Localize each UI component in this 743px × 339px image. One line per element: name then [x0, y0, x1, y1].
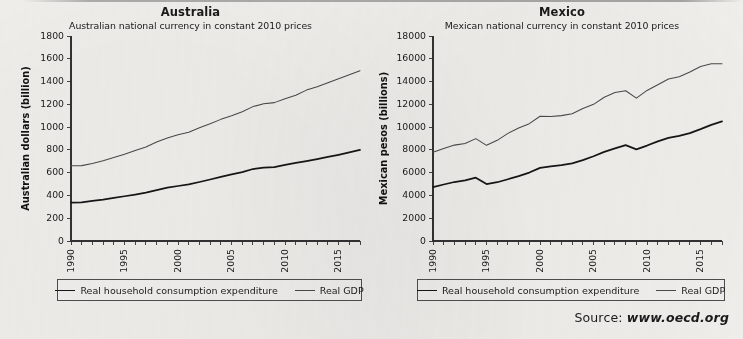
y-tick-label: 1600	[40, 52, 64, 63]
y-tick-label: 10000	[396, 121, 426, 132]
y-tick-label: 8000	[402, 143, 426, 154]
y-tick-label: 1800	[40, 30, 64, 41]
x-tick-label: 2000	[172, 249, 183, 273]
y-tick-label: 6000	[402, 166, 426, 177]
legend-label-consumption: Real household consumption expenditure	[442, 285, 639, 296]
y-tick-label: 1000	[40, 121, 64, 132]
y-tick-label: 18000	[396, 30, 426, 41]
legend-australia: Real household consumption expenditure R…	[57, 279, 362, 301]
x-tick-label: 2010	[279, 249, 290, 273]
x-tick-label: 2015	[332, 249, 343, 273]
page-top-edge	[0, 0, 743, 2]
y-tick-label: 0	[420, 235, 426, 246]
x-tick-label: 2010	[641, 249, 652, 273]
x-tick-label: 1995	[118, 249, 129, 273]
legend-entry-gdp: Real GDP	[295, 285, 364, 296]
x-tick-label: 2005	[587, 249, 598, 273]
source-label: Source:	[574, 310, 622, 325]
y-axis-title: Australian dollars (billion)	[20, 66, 31, 210]
x-tick-label: 2005	[225, 249, 236, 273]
legend-entry-consumption: Real household consumption expenditure	[55, 285, 277, 296]
legend-label-gdp: Real GDP	[320, 285, 364, 296]
legend-swatch-gdp	[295, 290, 315, 291]
y-tick-label: 12000	[396, 98, 426, 109]
y-tick-label: 14000	[396, 75, 426, 86]
legend-swatch-consumption	[417, 290, 437, 291]
chart-panel-mexico: Mexico Mexican national currency in cons…	[381, 0, 743, 339]
x-tick-label: 2000	[534, 249, 545, 273]
x-tick-label: 1995	[480, 249, 491, 273]
chart-panel-australia: Australia Australian national currency i…	[0, 0, 381, 339]
series-line-consumption	[433, 121, 722, 187]
y-tick-label: 400	[46, 189, 64, 200]
plot-area-australia: 0200400600800100012001400160018001990199…	[0, 0, 381, 275]
y-tick-label: 200	[46, 212, 64, 223]
y-tick-label: 600	[46, 166, 64, 177]
legend-swatch-gdp	[656, 290, 676, 291]
y-axis-title: Mexican pesos (billions)	[378, 72, 389, 205]
x-tick-label: 2015	[694, 249, 705, 273]
y-tick-label: 2000	[402, 212, 426, 223]
legend-entry-consumption: Real household consumption expenditure	[417, 285, 639, 296]
x-tick-label: 1990	[65, 249, 76, 273]
plot-area-mexico: 0200040006000800010000120001400016000180…	[381, 0, 743, 275]
legend-entry-gdp: Real GDP	[656, 285, 725, 296]
legend-mexico: Real household consumption expenditure R…	[417, 279, 725, 301]
y-tick-label: 4000	[402, 189, 426, 200]
y-tick-label: 1400	[40, 75, 64, 86]
legend-label-consumption: Real household consumption expenditure	[80, 285, 277, 296]
figure-oecd-consumption-gdp: Australia Australian national currency i…	[0, 0, 743, 339]
y-tick-label: 800	[46, 143, 64, 154]
y-tick-label: 0	[58, 235, 64, 246]
x-tick-label: 1990	[427, 249, 438, 273]
legend-swatch-consumption	[55, 290, 75, 291]
source-url: www.oecd.org	[627, 310, 729, 325]
legend-label-gdp: Real GDP	[681, 285, 725, 296]
y-tick-label: 1200	[40, 98, 64, 109]
axis-lines	[71, 36, 360, 241]
series-line-real-gdp	[433, 64, 722, 152]
source-note: Source: www.oecd.org	[574, 310, 729, 325]
series-line-real-gdp	[71, 71, 360, 166]
y-tick-label: 16000	[396, 52, 426, 63]
